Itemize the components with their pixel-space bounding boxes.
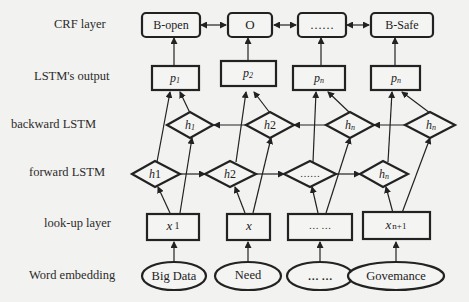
embedding-node-label: Govemance (366, 269, 426, 283)
crf-node-label: B-open (153, 18, 188, 32)
crf-node-label: O (245, 17, 254, 32)
crf-node-label: B-Safe (385, 18, 418, 32)
lookup-node-label: x (245, 218, 252, 233)
bilstm-crf-diagram: B-open O …… B-Safe p1 p2 pn pn h1 h2 hn … (0, 0, 469, 302)
lookup-node-box (147, 214, 199, 240)
backward-node-label: h2 (264, 118, 276, 132)
lookup-node-label: … … (309, 220, 332, 231)
forward-node-label: …… (300, 168, 320, 179)
forward-node-label: h1 (149, 167, 161, 181)
forward-node-label: h2 (224, 167, 236, 181)
embedding-node-label: Need (235, 268, 262, 282)
embedding-node-label: … … (308, 270, 333, 282)
embedding-node-label: Big Data (152, 269, 197, 283)
crf-node-label: …… (310, 18, 334, 32)
